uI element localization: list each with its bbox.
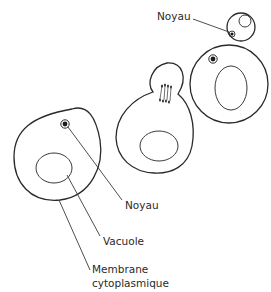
budding-cell-vacuole <box>140 131 178 161</box>
budding-cell-membrane <box>116 63 193 173</box>
label-membrane-line2: cytoplasmique <box>92 277 169 289</box>
yeast-budding-diagram: Noyau Noyau Vacuole Membrane cytoplasmiq… <box>0 0 271 292</box>
mother-cell-nucleus <box>211 57 216 62</box>
mother-cell-vacuole <box>215 66 247 110</box>
label-noyau-top: Noyau <box>157 10 191 22</box>
label-noyau-bottom: Noyau <box>125 199 159 211</box>
leader-vacuole <box>67 175 100 236</box>
mother-cell-right <box>190 45 268 123</box>
budding-cell <box>116 63 193 173</box>
chromosomes <box>159 83 172 103</box>
daughter-cell <box>227 13 255 41</box>
leader-membrane <box>59 200 90 270</box>
mature-cell-nucleus <box>63 122 68 127</box>
label-vacuole: Vacuole <box>103 235 144 247</box>
mother-cell-membrane <box>190 45 268 123</box>
leader-noyau-top <box>193 19 229 32</box>
daughter-cell-nucleus <box>230 32 233 35</box>
daughter-cell-vacuole <box>239 15 251 27</box>
leader-noyau-bottom <box>68 127 122 200</box>
label-membrane-line1: Membrane <box>92 263 148 275</box>
mature-cell-vacuole <box>36 153 72 183</box>
